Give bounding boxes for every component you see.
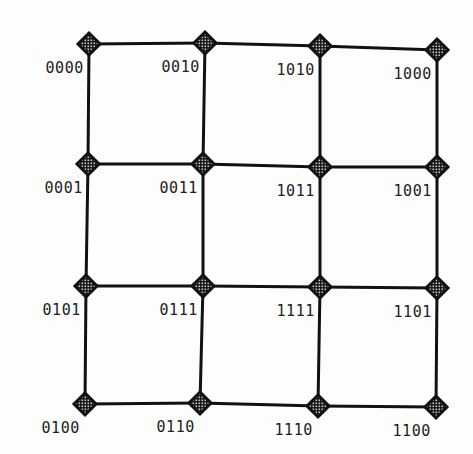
node-label: 0100 <box>42 419 80 437</box>
node-label: 1011 <box>277 182 315 200</box>
mesh-edge <box>203 43 205 164</box>
mesh-edge <box>203 286 320 287</box>
mesh-edge <box>200 286 203 403</box>
node-label: 0011 <box>160 179 198 197</box>
node-diamond-icon <box>78 33 100 55</box>
mesh-edge <box>203 164 320 167</box>
mesh-edge <box>85 403 200 404</box>
mesh-edge <box>205 43 320 46</box>
mesh-edge <box>85 286 86 404</box>
mesh-edge <box>200 403 318 406</box>
node-diamond-icon <box>192 153 214 175</box>
mesh-edge <box>320 287 437 288</box>
node-diamond-icon <box>75 275 97 297</box>
node-label: 1110 <box>275 421 313 439</box>
node-diamond-icon <box>426 39 448 61</box>
mesh-edge <box>88 44 89 164</box>
node-label: 1010 <box>277 61 315 79</box>
node-diamond-icon <box>425 396 447 418</box>
mesh-edge <box>436 288 437 407</box>
node-diamond-icon <box>309 156 331 178</box>
node-label: 0111 <box>160 301 198 319</box>
node-diamond-icon <box>426 156 448 178</box>
mesh-nodes <box>74 32 448 418</box>
node-label: 1001 <box>394 182 432 200</box>
node-label: 1101 <box>394 303 432 321</box>
node-diamond-icon <box>194 32 216 54</box>
node-label: 0010 <box>162 58 200 76</box>
node-label: 0110 <box>157 418 195 436</box>
node-label: 0001 <box>45 179 83 197</box>
mesh-edge <box>86 164 88 286</box>
node-diamond-icon <box>426 277 448 299</box>
node-diamond-icon <box>309 276 331 298</box>
mesh-edge <box>318 406 436 407</box>
mesh-edges <box>85 43 437 407</box>
mesh-edge <box>318 287 320 406</box>
mesh-edge <box>89 43 205 44</box>
node-label: 0101 <box>43 301 81 319</box>
mesh-edge <box>320 46 437 50</box>
node-label: 1000 <box>394 65 432 83</box>
node-label: 0000 <box>46 59 84 77</box>
node-diamond-icon <box>307 395 329 417</box>
node-label: 1111 <box>277 302 315 320</box>
node-label: 1100 <box>393 422 431 440</box>
node-diamond-icon <box>74 393 96 415</box>
node-diamond-icon <box>189 392 211 414</box>
node-diamond-icon <box>77 153 99 175</box>
node-diamond-icon <box>192 275 214 297</box>
node-diamond-icon <box>309 35 331 57</box>
